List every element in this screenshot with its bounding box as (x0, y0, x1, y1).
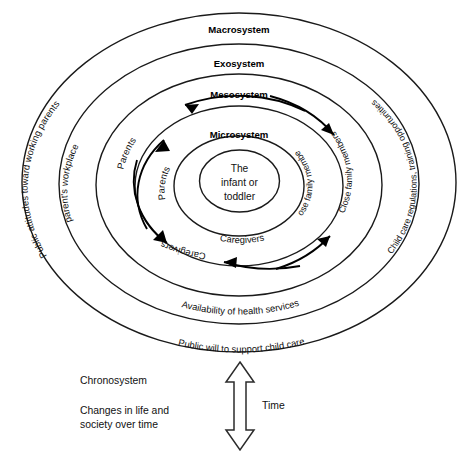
chronosystem-desc-line-1: Changes in life and (80, 405, 169, 416)
microsystem-parents-label: Parents (155, 164, 172, 201)
macrosystem-public-attitudes-label: Public attitudes toward working parents (19, 98, 62, 260)
exosystem-workplace-label: parent's workplace (58, 142, 80, 224)
exosystem-title: Exosystem (214, 58, 265, 69)
diagram-canvas: Macrosystem Exosystem Mesosystem Microsy… (0, 0, 471, 454)
time-double-arrow-icon (226, 362, 254, 450)
flow-arrow-right-up (276, 236, 330, 269)
exosystem-health-services-label: Availability of health services (181, 297, 301, 317)
core-line-2: infant or (221, 177, 258, 188)
chronosystem-desc-line-2: society over time (80, 419, 158, 430)
mesosystem-title: Mesosystem (210, 89, 268, 100)
macrosystem-title: Macrosystem (208, 24, 269, 35)
chronosystem-label: Chronosystem (80, 375, 147, 386)
core-line-3: toddler (224, 191, 256, 202)
microsystem-caregivers-label: Caregivers (219, 232, 265, 246)
mesosystem-parents-label: Parents (115, 135, 139, 170)
time-label: Time (262, 400, 285, 411)
core-line-1: The (231, 163, 249, 174)
exosystem-childcare-regulations-label: Child care regulations, training opportu… (369, 98, 419, 256)
macrosystem-public-will-label: Public will to support child care (177, 335, 305, 354)
flow-arrow-bottom-left (224, 257, 300, 269)
ecological-systems-diagram: Macrosystem Exosystem Mesosystem Microsy… (0, 0, 471, 454)
microsystem-title: Microsystem (210, 129, 269, 140)
